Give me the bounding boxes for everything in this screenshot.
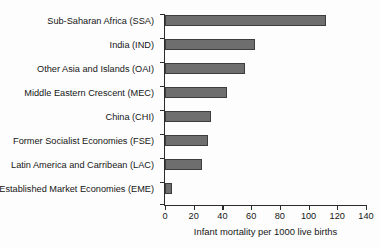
x-axis-tick — [309, 205, 310, 210]
category-label: India (IND) — [0, 40, 154, 50]
x-axis-tick-label: 80 — [265, 211, 295, 221]
x-axis-tick-label: 0 — [150, 211, 180, 221]
plot-area — [165, 14, 366, 205]
bar — [165, 135, 208, 146]
x-axis-tick — [222, 205, 223, 210]
category-label: Latin America and Carribean (LAC) — [0, 160, 154, 170]
category-label: China (CHI) — [0, 112, 154, 122]
x-axis-tick-label: 20 — [179, 211, 209, 221]
bar — [165, 111, 211, 122]
category-axis-labels: Sub-Saharan Africa (SSA) India (IND) Oth… — [0, 14, 160, 205]
x-axis-title: Infant mortality per 1000 live births — [165, 226, 366, 237]
category-label: Former Socialist Economies (FSE) — [0, 136, 154, 146]
bar — [165, 87, 227, 98]
x-axis-tick-label: 40 — [207, 211, 237, 221]
x-axis-tick — [194, 205, 195, 210]
x-axis-tick — [165, 205, 166, 210]
category-label: Other Asia and Islands (OAI) — [0, 64, 154, 74]
x-axis-tick-label: 120 — [322, 211, 352, 221]
bar-chart: Sub-Saharan Africa (SSA) India (IND) Oth… — [0, 0, 380, 248]
category-label: Middle Eastern Crescent (MEC) — [0, 88, 154, 98]
bar — [165, 39, 255, 50]
x-axis-tick-label: 100 — [294, 211, 324, 221]
x-axis-tick — [251, 205, 252, 210]
x-axis-tick — [366, 205, 367, 210]
x-axis-tick — [337, 205, 338, 210]
category-label: Established Market Economies (EME) — [0, 184, 154, 194]
bar — [165, 15, 326, 26]
x-axis-tick-label: 140 — [351, 211, 380, 221]
bar — [165, 63, 245, 74]
bar — [165, 159, 202, 170]
category-label: Sub-Saharan Africa (SSA) — [0, 16, 154, 26]
bar — [165, 183, 172, 194]
x-axis-tick — [280, 205, 281, 210]
x-axis-tick-label: 60 — [236, 211, 266, 221]
